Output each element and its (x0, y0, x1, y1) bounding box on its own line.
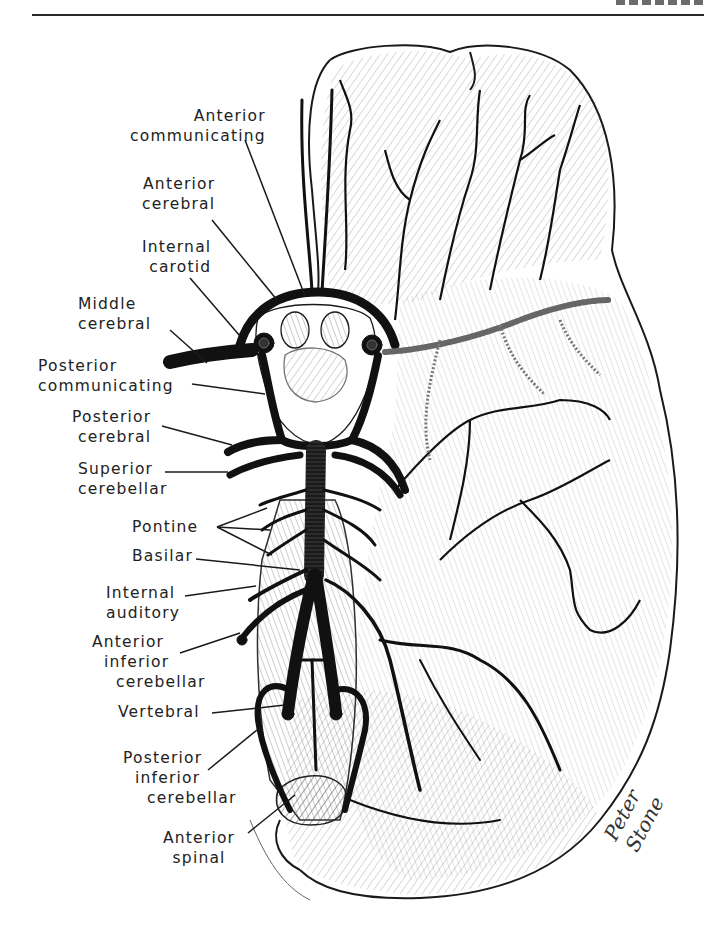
leader-anterior-cerebral (212, 220, 277, 300)
label-posterior-communicating: Posterior communicating (38, 356, 174, 396)
leader-internal-carotid (190, 278, 240, 336)
label-internal-carotid: Internal carotid (142, 237, 211, 277)
leader-internal-auditory (185, 586, 256, 596)
label-vertebral: Vertebral (118, 702, 200, 722)
label-pontine: Pontine (132, 517, 198, 537)
brain-arteries-figure: Anterior communicating Anterior cerebral… (0, 0, 704, 935)
label-anterior-communicating: Anterior communicating (130, 106, 266, 146)
leader-posterior-cerebral (162, 426, 232, 445)
label-posterior-cerebral: Posterior cerebral (72, 407, 151, 447)
label-middle-cerebral: Middle cerebral (78, 294, 151, 334)
leader-pontine-1 (217, 508, 267, 527)
leader-posterior-communicating (192, 384, 265, 394)
label-posterior-inferior-cerebellar: Posterior inferior cerebellar (123, 748, 237, 808)
label-internal-auditory: Internal auditory (106, 583, 180, 623)
leader-pontine-3 (217, 527, 272, 555)
label-anterior-cerebral: Anterior cerebral (142, 174, 215, 214)
label-superior-cerebellar: Superior cerebellar (78, 459, 168, 499)
label-anterior-inferior-cerebellar: Anterior inferior cerebellar (92, 632, 206, 692)
label-anterior-spinal: Anterior spinal (163, 828, 235, 868)
label-basilar: Basilar (132, 546, 193, 566)
